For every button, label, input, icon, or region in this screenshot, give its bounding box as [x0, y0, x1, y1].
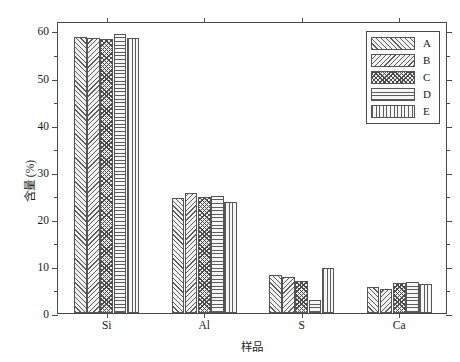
legend-item-c: C	[371, 69, 435, 86]
bar-group-al	[172, 23, 237, 313]
chart-legend: ABCDE	[366, 31, 440, 124]
y-axis-tick-minor	[54, 56, 58, 57]
y-axis-tick-major	[52, 221, 58, 222]
legend-label-e: E	[423, 106, 430, 117]
bar-s-b	[282, 277, 295, 313]
y-axis-tick-minor	[54, 150, 58, 151]
legend-label-c: C	[423, 72, 430, 83]
bar-s-a	[269, 275, 282, 313]
y-axis-tick-major	[52, 174, 58, 175]
bar-s-c	[295, 281, 308, 313]
y-axis-tick-label: 40	[38, 121, 50, 133]
y-axis-tick-label: 0	[43, 309, 49, 321]
x-axis-tick	[204, 313, 205, 318]
legend-item-b: B	[371, 52, 435, 69]
legend-swatch-c	[371, 71, 415, 84]
y-axis-tick-minor-right	[446, 244, 450, 245]
x-axis-tick-top	[399, 18, 400, 23]
x-axis-tick-label: Al	[199, 320, 211, 332]
y-axis-tick-major-right	[446, 268, 452, 269]
x-axis-tick-top	[204, 18, 205, 23]
y-axis-tick-minor-right	[446, 56, 450, 57]
bar-si-c	[100, 39, 113, 313]
bar-ca-a	[367, 287, 380, 313]
y-axis-tick-major-right	[446, 315, 452, 316]
legend-swatch-e	[371, 105, 415, 118]
y-axis-tick-label: 20	[38, 215, 50, 227]
bar-al-d	[211, 196, 224, 313]
y-axis-tick-label: 10	[38, 262, 50, 274]
legend-swatch-d	[371, 88, 415, 101]
y-axis-tick-major	[52, 127, 58, 128]
bar-si-a	[74, 37, 87, 313]
y-axis-tick-major-right	[446, 127, 452, 128]
legend-swatch-a	[371, 37, 415, 50]
y-axis-title: 含量 (%)	[21, 160, 37, 202]
y-axis-tick-minor	[54, 197, 58, 198]
bar-al-c	[198, 197, 211, 313]
y-axis-tick-major-right	[446, 221, 452, 222]
y-axis-tick-major-right	[446, 174, 452, 175]
bar-ca-d	[406, 282, 419, 313]
y-axis-tick-minor	[54, 103, 58, 104]
bar-ca-b	[380, 289, 393, 313]
legend-label-b: B	[423, 55, 430, 66]
x-axis-tick-top	[107, 18, 108, 23]
bar-al-e	[224, 202, 237, 313]
y-axis-tick-label: 50	[38, 74, 50, 86]
x-axis-title: 样品	[57, 338, 447, 354]
y-axis-tick-major	[52, 80, 58, 81]
y-axis-tick-minor	[54, 291, 58, 292]
bar-group-s	[269, 23, 334, 313]
legend-swatch-b	[371, 54, 415, 67]
x-axis-tick-label: Si	[102, 320, 112, 332]
y-axis-tick-minor-right	[446, 197, 450, 198]
bar-s-d	[309, 300, 322, 313]
bar-al-a	[172, 198, 185, 313]
legend-item-a: A	[371, 35, 435, 52]
x-axis-tick-label: S	[299, 320, 305, 332]
bar-si-d	[114, 34, 127, 313]
figure-canvas: 含量 (%) 0102030405060SiAlSCa 样品 ABCDE	[0, 0, 460, 362]
y-axis-tick-minor-right	[446, 150, 450, 151]
bar-si-b	[87, 38, 100, 313]
y-axis-tick-minor-right	[446, 103, 450, 104]
x-axis-tick-top	[302, 18, 303, 23]
legend-label-a: A	[423, 38, 431, 49]
bar-s-e	[322, 268, 335, 313]
y-axis-tick-major	[52, 32, 58, 33]
y-axis-tick-label: 30	[38, 168, 50, 180]
y-axis-tick-major-right	[446, 32, 452, 33]
x-axis-tick-label: Ca	[393, 320, 406, 332]
bar-al-b	[185, 193, 198, 313]
x-axis-tick	[302, 313, 303, 318]
y-axis-tick-major-right	[446, 80, 452, 81]
x-axis-tick	[399, 313, 400, 318]
bar-si-e	[127, 38, 140, 313]
y-axis-tick-major	[52, 315, 58, 316]
bar-group-si	[74, 23, 139, 313]
bar-ca-c	[393, 283, 406, 313]
legend-label-d: D	[423, 89, 431, 100]
y-axis-tick-label: 60	[38, 27, 50, 39]
legend-item-d: D	[371, 86, 435, 103]
legend-item-e: E	[371, 103, 435, 120]
y-axis-tick-major	[52, 268, 58, 269]
y-axis-tick-minor-right	[446, 291, 450, 292]
bar-ca-e	[419, 284, 432, 313]
y-axis-tick-minor	[54, 244, 58, 245]
x-axis-tick	[107, 313, 108, 318]
